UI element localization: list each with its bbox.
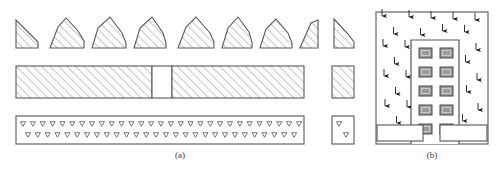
bar-gap — [152, 66, 172, 98]
window-cell — [419, 105, 432, 115]
base-block-right — [440, 125, 487, 141]
window-cell — [419, 48, 432, 58]
mound-shape-7 — [260, 19, 292, 48]
panel-a-hatched-bar-row — [16, 66, 354, 98]
hatched-bar-left-segment — [16, 66, 152, 98]
window-cell — [440, 86, 453, 96]
figure-root: (a) (b) — [0, 0, 503, 178]
window-cell — [440, 48, 453, 58]
mound-shape-5 — [178, 17, 214, 48]
panel-b-group — [376, 9, 488, 144]
mound-shape-isolated — [334, 19, 354, 48]
triangle-marker-bar — [16, 116, 304, 144]
base-block-left — [377, 125, 423, 141]
window-cell — [419, 67, 432, 77]
panel-a-mound-row — [16, 17, 354, 48]
mound-shape-8 — [300, 20, 318, 48]
isolated-triangle-block — [332, 116, 354, 144]
caption-panel-b: (b) — [392, 150, 472, 160]
window-cell — [419, 86, 432, 96]
mound-shape-2 — [50, 18, 84, 48]
mound-shape-4 — [134, 17, 166, 48]
mound-shape-3 — [92, 17, 126, 48]
mound-shape-1 — [16, 20, 38, 48]
hatched-bar-right-segment — [172, 66, 304, 98]
window-cell — [440, 67, 453, 77]
isolated-hatched-block — [332, 66, 354, 98]
window-cell — [440, 105, 453, 115]
caption-panel-a: (a) — [140, 150, 220, 160]
mound-shape-6 — [222, 17, 252, 48]
panel-a-triangle-bar-row — [16, 116, 354, 144]
